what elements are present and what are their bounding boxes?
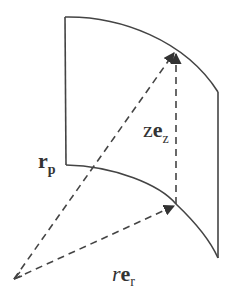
label-zez-sub: z xyxy=(163,131,169,146)
label-rp-main: r xyxy=(38,148,48,173)
surface-bottom-curve xyxy=(66,165,218,258)
curved-surface xyxy=(65,17,218,258)
label-zez-main: e xyxy=(153,117,163,142)
origin-marker xyxy=(14,272,22,279)
surface-top-curve xyxy=(65,17,218,92)
label-zez-coef: z xyxy=(143,117,153,142)
label-rer: rer xyxy=(112,261,135,289)
diagram-canvas: rp zez rer xyxy=(0,0,232,299)
label-rp-sub: p xyxy=(48,162,56,177)
label-rer-main: e xyxy=(121,261,131,286)
diagram-svg: rp zez rer xyxy=(0,0,232,299)
label-rer-sub: r xyxy=(130,274,135,289)
radial-vector-rer xyxy=(14,206,174,279)
label-rp: rp xyxy=(38,148,56,177)
surface-left-edge xyxy=(65,17,66,165)
label-zez: zez xyxy=(143,117,169,146)
